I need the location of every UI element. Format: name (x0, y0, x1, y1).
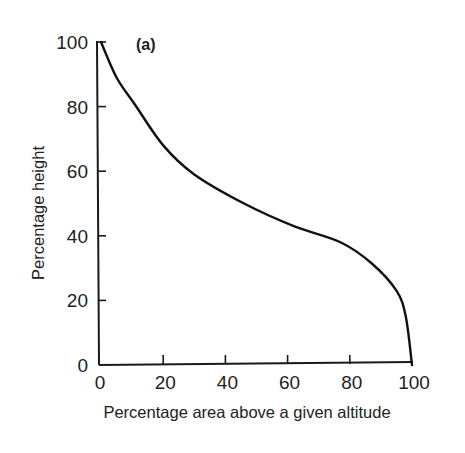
x-tick-labels: 020406080100 (95, 372, 430, 393)
x-tick-label: 20 (155, 372, 176, 393)
x-axis-line (99, 362, 413, 365)
x-tick-label: 40 (217, 372, 238, 393)
x-tick-label: 0 (95, 372, 106, 393)
x-tick-label: 100 (398, 372, 430, 393)
data-series-line (101, 42, 412, 365)
y-tick-label: 40 (67, 226, 88, 247)
axes (97, 41, 413, 365)
x-tick-label: 80 (341, 372, 362, 393)
y-tick-label: 20 (67, 290, 88, 311)
y-tick-label: 80 (67, 97, 88, 118)
panel-label: (a) (136, 36, 156, 53)
y-tick-labels: 020406080100 (56, 32, 88, 376)
y-tick-label: 100 (56, 32, 88, 53)
y-tick-label: 0 (77, 355, 88, 376)
x-tick-label: 60 (279, 372, 300, 393)
x-axis-label: Percentage area above a given altitude (103, 403, 390, 421)
y-axis-line (97, 41, 99, 365)
y-tick-label: 60 (67, 161, 88, 182)
hypsometric-chart: 020406080100 020406080100 (a) Percentage… (0, 0, 465, 453)
y-axis-label: Percentage height (29, 146, 47, 280)
